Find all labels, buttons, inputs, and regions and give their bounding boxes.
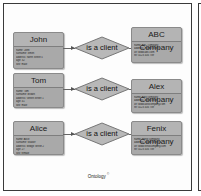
entity-title: Alice: [14, 122, 63, 136]
attribute: sex: female: [16, 152, 61, 155]
entity-attributes: name: Alice surname: Walker address: Bri…: [14, 136, 63, 157]
entity-abc-company[interactable]: ABC Company name: ABC company address: H…: [131, 27, 182, 63]
attribute: sex: male: [16, 63, 61, 66]
caption-mark: ©: [107, 172, 109, 176]
entity-title: Alex Company: [132, 80, 181, 94]
relation-label: is a client: [74, 122, 130, 146]
diagram-caption: Ontology ©: [0, 172, 197, 179]
entity-attributes: name: Tom surname: Brown address: Green …: [14, 88, 63, 109]
attribute: sex: male: [16, 104, 61, 107]
entity-alice[interactable]: Alice name: Alice surname: Walker addres…: [13, 121, 64, 155]
relation-diamond-2[interactable]: is a client: [74, 77, 130, 101]
relation-diamond-1[interactable]: is a client: [74, 36, 130, 60]
entity-alex-company[interactable]: Alex Company name: Alex company address:…: [131, 79, 182, 113]
entity-title: Tom: [14, 74, 63, 88]
entity-tom[interactable]: Tom name: Tom surname: Brown address: Gr…: [13, 73, 64, 108]
attribute: tel: 0123 456 789: [134, 106, 179, 109]
entity-title: Fenix Company: [132, 122, 181, 136]
adjacent-frame-edge: [198, 3, 201, 191]
entity-attributes: name: John surname: Smith address: North…: [14, 47, 63, 68]
entity-attributes: name: Alex company address: West Street …: [132, 94, 181, 112]
relation-diamond-3[interactable]: is a client: [74, 122, 130, 146]
caption-text: Ontology: [88, 174, 106, 179]
entity-john[interactable]: John name: John surname: Smith address: …: [13, 32, 64, 69]
entity-title: John: [14, 33, 63, 47]
entity-attributes: name: Fenix company address: South Stree…: [132, 136, 181, 154]
entity-title: ABC Company: [132, 28, 181, 42]
relation-label: is a client: [74, 36, 130, 60]
attribute: tel: 0123 456 789: [134, 148, 179, 151]
attribute: tel: 0123 456 789: [134, 54, 179, 57]
relation-label: is a client: [74, 77, 130, 101]
entity-fenix-company[interactable]: Fenix Company name: Fenix company addres…: [131, 121, 182, 155]
